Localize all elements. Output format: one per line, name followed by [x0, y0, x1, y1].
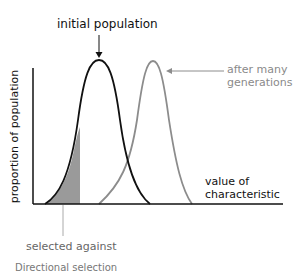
arrow-head-icon [166, 68, 172, 74]
arrow-head-icon [96, 52, 103, 58]
x-axis-label-line2: characteristic [205, 188, 280, 201]
caption: Directional selection [15, 261, 117, 274]
y-axis-label: proportion of population [8, 67, 21, 207]
after-many-label-line2: generations [227, 76, 293, 89]
x-axis-label-line1: value of [205, 175, 249, 188]
initial-population-label: initial population [57, 18, 158, 31]
after-many-label-line1: after many [227, 63, 287, 76]
selected-against-label: selected against [26, 240, 116, 253]
directional-selection-diagram [0, 0, 298, 279]
